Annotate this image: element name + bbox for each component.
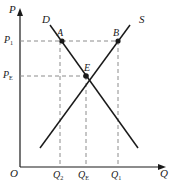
supply-demand-diagram: P Q O D S A B E P1 PE Q2 QE Q1	[0, 0, 175, 190]
point-e-label: E	[84, 63, 90, 73]
supply-curve-label: S	[139, 14, 145, 25]
tick-label-p1-sub: 1	[10, 39, 13, 46]
tick-label-qe-sub: E	[85, 174, 89, 181]
tick-label-q2: Q2	[53, 170, 63, 180]
tick-label-pe: PE	[3, 70, 13, 80]
tick-label-qe: QE	[78, 170, 89, 180]
supply-curve	[40, 25, 130, 148]
point-a-marker	[59, 38, 64, 43]
tick-label-q2-sub: 2	[60, 174, 63, 181]
tick-label-pe-sub: E	[9, 74, 13, 81]
price-axis-arrow-icon	[17, 8, 23, 16]
point-a-label: A	[57, 28, 63, 38]
point-e-marker	[83, 73, 89, 79]
tick-label-p1: P1	[4, 35, 13, 45]
demand-curve	[50, 25, 138, 148]
tick-label-q1: Q1	[111, 170, 121, 180]
point-b-label: B	[113, 28, 119, 38]
origin-label: O	[10, 168, 18, 179]
price-axis-label: P	[9, 4, 16, 15]
tick-label-q1-sub: 1	[118, 174, 121, 181]
diagram-canvas	[0, 0, 175, 190]
point-b-marker	[115, 38, 120, 43]
quantity-axis-label: Q	[160, 168, 168, 179]
demand-curve-label: D	[42, 14, 50, 25]
